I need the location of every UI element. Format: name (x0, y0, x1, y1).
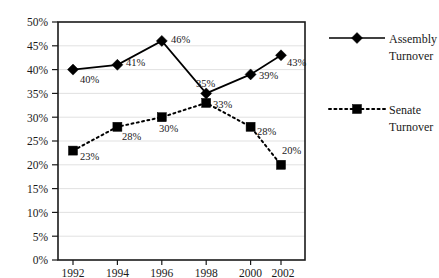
legend-item-senate-turnover[interactable]: Senate Turnover (329, 103, 433, 134)
series-line-assembly-turnover (73, 41, 281, 94)
ytick-label-30: 30% (27, 112, 49, 124)
legend-diamond-icon (352, 33, 363, 44)
data-label-senate-1998: 33% (213, 99, 233, 110)
ytick-label-15: 15% (27, 183, 49, 195)
data-label-assembly-1992: 40% (80, 74, 100, 85)
chart-canvas: 50% 45% 40% 35% 30% 25% 20% 15% 10% 5% 0… (0, 0, 439, 278)
ytick-label-40: 40% (27, 64, 49, 76)
data-label-senate-2000: 28% (257, 126, 277, 137)
ytick-label-35: 35% (27, 88, 49, 100)
data-label-senate-1992: 23% (80, 151, 100, 162)
legend-item-assembly-turnover[interactable]: Assembly Turnover (329, 32, 437, 63)
legend-label-senate-line2: Turnover (389, 120, 433, 134)
ytick-label-20: 20% (27, 159, 49, 171)
data-point-senate-1994 (113, 122, 122, 131)
data-label-senate-2002: 20% (282, 145, 302, 156)
data-point-senate-1996 (157, 113, 166, 122)
data-point-assembly-2002 (276, 50, 287, 61)
line-chart: 50% 45% 40% 35% 30% 25% 20% 15% 10% 5% 0… (0, 0, 439, 278)
legend-label-assembly-line2: Turnover (389, 49, 433, 63)
xtick-label-1998: 1998 (195, 267, 218, 278)
y-axis-labels: 50% 45% 40% 35% 30% 25% 20% 15% 10% 5% 0… (27, 16, 49, 266)
xtick-label-1994: 1994 (106, 267, 129, 278)
ytick-label-25: 25% (27, 135, 49, 147)
data-point-assembly-1992 (68, 64, 79, 75)
xtick-label-1992: 1992 (62, 267, 85, 278)
data-point-assembly-1994 (112, 59, 123, 70)
ytick-label-0: 0% (33, 254, 49, 266)
data-label-assembly-1994: 41% (126, 57, 146, 68)
y-axis-ticks (52, 22, 58, 260)
data-point-senate-1998 (202, 98, 211, 107)
ytick-label-50: 50% (27, 16, 49, 28)
data-point-assembly-2000 (245, 69, 256, 80)
x-axis-labels: 1992 1994 1996 1998 2000 2002 (62, 267, 295, 278)
xtick-label-2000: 2000 (239, 267, 262, 278)
data-point-senate-2000 (246, 122, 255, 131)
legend-label-senate-line1: Senate (389, 103, 421, 117)
data-label-assembly-1996: 46% (171, 34, 191, 45)
legend-label-assembly-line1: Assembly (389, 32, 437, 46)
data-label-assembly-2002: 43% (287, 57, 307, 68)
xtick-label-2002: 2002 (272, 267, 295, 278)
legend-square-icon (353, 105, 362, 114)
ytick-label-45: 45% (27, 40, 49, 52)
data-point-senate-2002 (277, 160, 286, 169)
data-point-senate-1992 (69, 146, 78, 155)
data-label-senate-1996: 30% (159, 123, 179, 134)
chart-legend: Assembly Turnover Senate Turnover (329, 32, 437, 134)
ytick-label-5: 5% (33, 231, 49, 243)
data-label-assembly-1998: 35% (196, 78, 216, 89)
data-label-senate-1994: 28% (122, 131, 142, 142)
data-label-assembly-2000: 39% (259, 70, 279, 81)
ytick-label-10: 10% (27, 207, 49, 219)
xtick-label-1996: 1996 (150, 267, 173, 278)
